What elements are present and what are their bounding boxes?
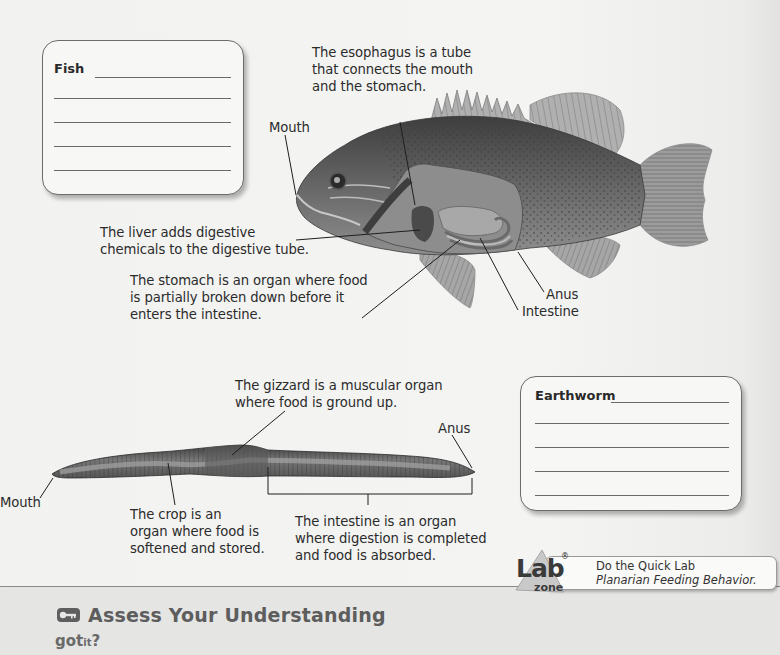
earthworm-answer-line[interactable] [611,402,729,403]
stomach-label: The stomach is an organ where food is pa… [130,272,368,323]
fish-mouth-label: Mouth [269,119,310,136]
fish-intestine-label: Intestine [522,303,579,320]
earthworm-answer-line[interactable] [535,423,729,424]
worm-intestine-label: The intestine is an organ where digestio… [295,513,486,564]
earthworm-note-title: Earthworm [535,388,615,403]
earthworm-answer-line[interactable] [535,447,729,448]
lab-zone-logo: Lab ® zone [512,548,572,596]
earthworm-note-box[interactable]: Earthworm [520,376,742,511]
key-icon [57,608,80,622]
earthworm-illustration [52,445,475,478]
worm-mouth-label: Mouth [0,494,41,511]
assess-heading: Assess Your Understanding [88,604,386,626]
got-it-heading: gotit? [55,632,100,650]
quick-lab-callout[interactable]: Do the Quick Lab Planarian Feeding Behav… [545,556,777,590]
fish-anus-label: Anus [546,286,578,303]
crop-label: The crop is an organ where food is softe… [130,506,265,557]
gizzard-label: The gizzard is a muscular organ where fo… [235,377,442,411]
fish-tail-fin [640,144,712,246]
worm-anus-label: Anus [438,420,470,437]
liver-label: The liver adds digestive chemicals to th… [100,224,309,258]
earthworm-answer-line[interactable] [535,495,729,496]
quick-lab-text: Do the Quick Lab Planarian Feeding Behav… [596,559,757,587]
earthworm-answer-line[interactable] [535,471,729,472]
textbook-page: Fish [0,0,780,655]
esophagus-label: The esophagus is a tube that connects th… [312,44,473,95]
